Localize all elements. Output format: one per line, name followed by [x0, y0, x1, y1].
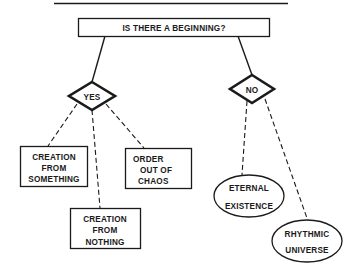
- root-question-label: IS THERE A BEGINNING?: [122, 24, 225, 33]
- order-out-of-chaos-box: ORDER OUT OF CHAOS: [126, 149, 192, 189]
- box-line: OUT OF: [140, 166, 172, 175]
- box-line: CHAOS: [138, 177, 169, 186]
- ellipse-line: RHYTHMIC: [285, 230, 330, 239]
- root-question-box: IS THERE A BEGINNING?: [79, 19, 270, 37]
- box-line: NOTHING: [85, 238, 124, 247]
- connector-root-no: [238, 36, 252, 75]
- box-line: SOMETHING: [28, 175, 79, 184]
- box-line: FROM: [42, 164, 67, 173]
- eternal-existence-ellipse: ETERNAL EXISTENCE: [214, 175, 284, 217]
- box-line: CREATION: [32, 153, 76, 162]
- decision-tree-diagram: IS THERE A BEGINNING? YES NO CREATION FR…: [0, 0, 362, 276]
- yes-label: YES: [84, 93, 101, 102]
- connector-yes-chaos: [106, 104, 144, 148]
- creation-from-something-box: CREATION FROM SOMETHING: [21, 147, 88, 187]
- box-line: FROM: [93, 226, 118, 235]
- connector-yes-something: [48, 104, 77, 146]
- rhythmic-universe-ellipse: RHYTHMIC UNIVERSE: [272, 220, 342, 262]
- ellipse-line: UNIVERSE: [285, 246, 329, 255]
- creation-from-nothing-box: CREATION FROM NOTHING: [71, 209, 141, 249]
- ellipse-line: ETERNAL: [229, 184, 269, 193]
- box-line: ORDER: [133, 155, 164, 164]
- connector-no-eternal: [242, 101, 247, 175]
- box-line: CREATION: [83, 215, 127, 224]
- ellipse-line: EXISTENCE: [225, 202, 274, 211]
- connector-root-yes: [92, 36, 105, 82]
- no-diamond: NO: [230, 75, 274, 103]
- no-label: NO: [246, 86, 259, 95]
- connector-yes-nothing: [92, 110, 100, 208]
